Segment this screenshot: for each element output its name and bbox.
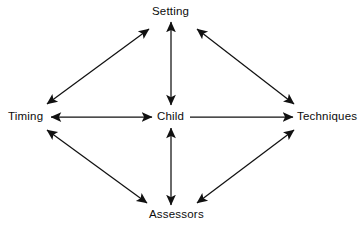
edge-timing-assessors	[47, 130, 147, 203]
diagram-canvas: Setting Timing Child Techniques Assessor…	[0, 0, 358, 226]
edge-timing-setting	[47, 29, 149, 104]
node-setting: Setting	[150, 4, 191, 18]
edge-setting-techniques	[197, 29, 294, 104]
node-techniques: Techniques	[295, 109, 358, 123]
node-child: Child	[155, 109, 186, 123]
edge-assessors-techniques	[197, 130, 294, 203]
node-timing: Timing	[6, 109, 45, 123]
node-assessors: Assessors	[147, 207, 206, 221]
